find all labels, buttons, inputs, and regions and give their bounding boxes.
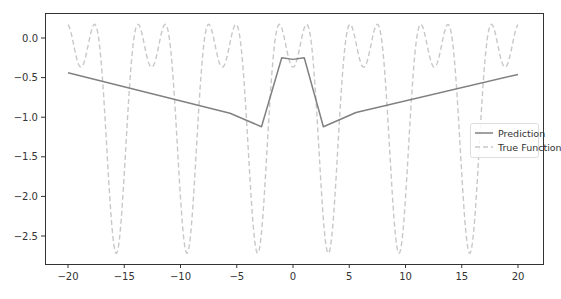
y-tick-label: −0.5 <box>14 72 38 83</box>
legend-prediction-label: Prediction <box>498 128 545 139</box>
legend-true-function-label: True Function <box>497 142 561 153</box>
figure-caption-clipped <box>14 291 214 299</box>
y-tick-label: 0.0 <box>22 33 38 44</box>
x-tick-label: 10 <box>399 271 412 282</box>
y-tick-label: −2.5 <box>14 231 38 242</box>
legend: Prediction True Function <box>471 124 561 158</box>
y-tick-label: −1.5 <box>14 151 38 162</box>
x-tick-label: −15 <box>114 271 135 282</box>
x-tick-label: 5 <box>346 271 352 282</box>
y-axis: 0.0−0.5−1.0−1.5−2.0−2.5 <box>14 33 45 242</box>
prediction-line <box>68 58 518 127</box>
chart: −20−15−10−505101520 0.0−0.5−1.0−1.5−2.0−… <box>0 0 561 299</box>
x-tick-label: 20 <box>512 271 525 282</box>
x-tick-label: 15 <box>455 271 468 282</box>
y-tick-label: −1.0 <box>14 112 38 123</box>
x-tick-label: −10 <box>170 271 191 282</box>
x-tick-label: 0 <box>290 271 296 282</box>
x-tick-label: −5 <box>229 271 244 282</box>
x-axis: −20−15−10−505101520 <box>57 264 524 282</box>
y-tick-label: −2.0 <box>14 191 38 202</box>
x-tick-label: −20 <box>57 271 78 282</box>
